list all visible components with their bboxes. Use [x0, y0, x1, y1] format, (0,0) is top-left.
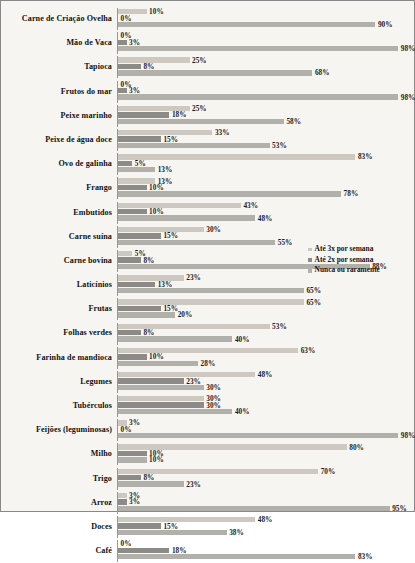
chart-row: Embutidos43%10%48% [5, 201, 410, 225]
bar-value-label: 30% [206, 402, 221, 409]
bar-segment [118, 240, 275, 245]
bar-segment [118, 88, 127, 93]
chart-row: Frutas65%15%20% [5, 297, 410, 321]
bar-group: 48%15%38% [117, 516, 410, 538]
bar-value-label: 15% [163, 232, 178, 239]
bar-segment [118, 257, 141, 262]
bar-segment [118, 112, 169, 117]
bar-value-label: 10% [149, 456, 164, 463]
bar-segment [118, 354, 147, 359]
bar-value-label: 8% [143, 474, 154, 481]
bar-segment [118, 209, 147, 214]
chart-row: Ovo de galinha83%5%13% [5, 152, 410, 176]
bar-segment [118, 22, 375, 27]
legend-item[interactable]: Até 3x por semana [308, 244, 380, 255]
bar-value-label: 13% [158, 281, 173, 288]
chart-row: Feijões (leguminosas)3%0%98% [5, 418, 410, 442]
bar-segment [118, 517, 255, 522]
bar-group: 0%3%98% [117, 81, 410, 103]
chart-legend: Até 3x por semanaAté 2x por semanaNunca … [308, 244, 380, 276]
category-label: Café [5, 547, 117, 555]
category-label: Folhas verdes [5, 329, 117, 337]
bar-segment [118, 185, 147, 190]
bar-value-label: 33% [215, 129, 230, 136]
bar-segment [118, 282, 155, 287]
bar-segment [118, 119, 284, 124]
bar-segment [118, 215, 255, 220]
chart-row: Peixe marinho25%18%58% [5, 104, 410, 128]
chart-row: Laticínios23%13%65% [5, 273, 410, 297]
category-label: Farinha de mandioca [5, 354, 117, 362]
chart-row: Tapioca25%8%68% [5, 55, 410, 79]
category-label: Ovo de galinha [5, 160, 117, 168]
bar-value-label: 40% [235, 408, 250, 415]
bar-value-label: 10% [149, 208, 164, 215]
category-label: Feijões (leguminosas) [5, 426, 117, 434]
bar-segment [118, 154, 355, 159]
bar-segment [118, 451, 147, 456]
legend-label: Até 2x por semana [315, 255, 374, 266]
bar-segment [118, 402, 204, 407]
chart-row: Arroz3%3%95% [5, 491, 410, 515]
bar-value-label: 28% [201, 360, 216, 367]
bar-segment [118, 336, 232, 341]
bar-value-label: 25% [192, 105, 207, 112]
bar-segment [118, 433, 398, 438]
bar-segment [118, 275, 184, 280]
bar-value-label: 10% [149, 8, 164, 15]
bar-value-label: 55% [278, 239, 293, 246]
bar-group: 10%0%90% [117, 8, 410, 30]
legend-item[interactable]: Até 2x por semana [308, 255, 380, 266]
bar-value-label: 10% [149, 353, 164, 360]
legend-label: Até 3x por semana [315, 244, 374, 255]
category-label: Peixe de água doce [5, 136, 117, 144]
bar-segment [118, 361, 198, 366]
bar-value-label: 38% [229, 529, 244, 536]
category-label: Tapioca [5, 63, 117, 71]
category-label: Arroz [5, 499, 117, 507]
bar-value-label: 53% [272, 323, 287, 330]
bar-segment [118, 288, 304, 293]
bar-value-label: 15% [163, 136, 178, 143]
bar-value-label: 40% [235, 336, 250, 343]
bar-segment [118, 312, 175, 317]
bar-segment [118, 299, 304, 304]
bar-group: 63%10%28% [117, 347, 410, 369]
bar-segment [118, 493, 127, 498]
category-label: Legumes [5, 378, 117, 386]
category-label: Mão de Vaca [5, 39, 117, 47]
bar-segment [118, 64, 141, 69]
bar-value-label: 70% [321, 468, 336, 475]
bar-value-label: 95% [392, 505, 407, 512]
bar-value-label: 8% [143, 329, 154, 336]
category-label: Carne suína [5, 233, 117, 241]
category-label: Doces [5, 523, 117, 531]
bar-group: 80%10%10% [117, 443, 410, 465]
bar-value-label: 48% [258, 516, 273, 523]
bar-group: 83%5%13% [117, 153, 410, 175]
bar-segment [118, 523, 161, 528]
legend-item[interactable]: Nunca ou raramente [308, 265, 380, 276]
chart-row: Café0%18%83% [5, 539, 410, 563]
bar-value-label: 3% [129, 87, 140, 94]
bar-value-label: 8% [143, 63, 154, 70]
bar-segment [118, 306, 161, 311]
legend-swatch-icon [308, 258, 312, 262]
bar-value-label: 48% [258, 215, 273, 222]
bar-value-label: 30% [206, 226, 221, 233]
bar-value-label: 3% [129, 498, 140, 505]
category-label: Tubérculos [5, 402, 117, 410]
bar-group: 53%8%40% [117, 323, 410, 345]
chart-row: Tubérculos30%30%40% [5, 394, 410, 418]
chart-row: Frutos do mar0%3%98% [5, 80, 410, 104]
bar-segment [118, 385, 204, 390]
bar-value-label: 18% [172, 547, 187, 554]
bar-value-label: 23% [186, 274, 201, 281]
bar-group: 3%0%98% [117, 419, 410, 441]
chart-row: Trigo70%8%23% [5, 467, 410, 491]
category-label: Laticínios [5, 281, 117, 289]
bar-value-label: 8% [143, 257, 154, 264]
bar-group: 0%18%83% [117, 540, 410, 562]
chart-row: Doces48%15%38% [5, 515, 410, 539]
